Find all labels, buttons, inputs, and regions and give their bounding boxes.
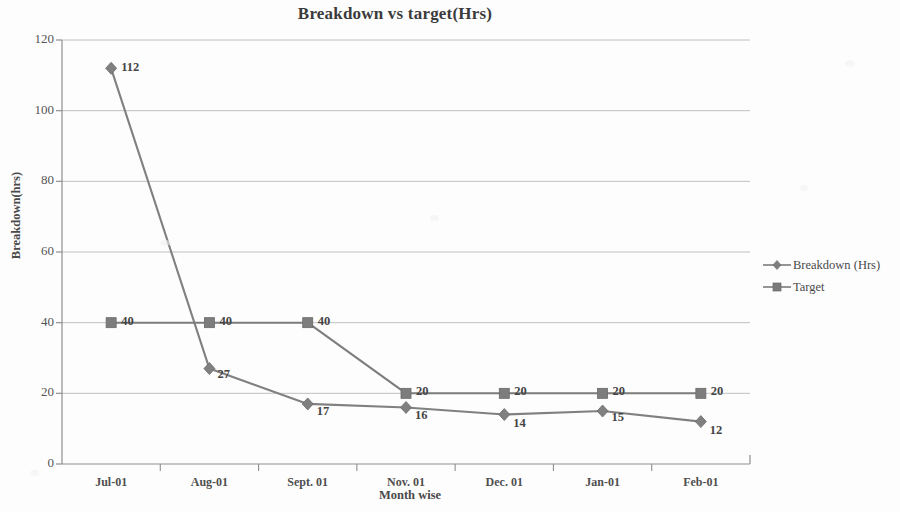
y-tick-label: 100 [10,102,54,118]
y-tick-label: 20 [10,384,54,400]
x-tick-label: Sept. 01 [263,475,353,490]
data-point-label: 27 [217,367,230,382]
chart-legend: Breakdown (Hrs) Target [762,254,880,298]
chart-container: Breakdown vs target(Hrs) Breakdown(hrs) … [0,0,900,512]
data-point-label: 40 [219,314,232,329]
legend-marker-diamond-icon [762,258,792,272]
data-point-label: 40 [121,314,134,329]
legend-item-target[interactable]: Target [762,276,880,298]
x-tick-label: Feb-01 [656,475,746,490]
data-point-label: 12 [710,423,723,438]
data-point-label: 112 [121,60,139,75]
y-tick-label: 60 [10,243,54,259]
x-tick-label: Jan-01 [558,475,648,490]
data-point-label: 15 [612,410,625,425]
y-tick-label: 80 [10,172,54,188]
x-tick-label: Aug-01 [164,475,254,490]
data-point-label: 20 [514,384,527,399]
y-tick-label: 40 [10,314,54,330]
data-point-label: 40 [318,314,331,329]
x-tick-label: Jul-01 [66,475,156,490]
y-tick-label: 120 [10,31,54,47]
data-point-label: 17 [317,404,330,419]
data-point-label: 20 [711,384,724,399]
legend-marker-square-icon [762,280,792,294]
data-point-label: 20 [416,384,429,399]
data-point-label: 14 [513,416,526,431]
data-point-label: 16 [415,408,428,423]
legend-item-breakdown[interactable]: Breakdown (Hrs) [762,254,880,276]
data-point-label: 20 [613,384,626,399]
x-tick-label: Nov. 01 [361,475,451,490]
legend-label-breakdown: Breakdown (Hrs) [793,258,880,273]
legend-label-target: Target [793,280,825,295]
y-tick-label: 0 [10,455,54,471]
x-tick-label: Dec. 01 [459,475,549,490]
